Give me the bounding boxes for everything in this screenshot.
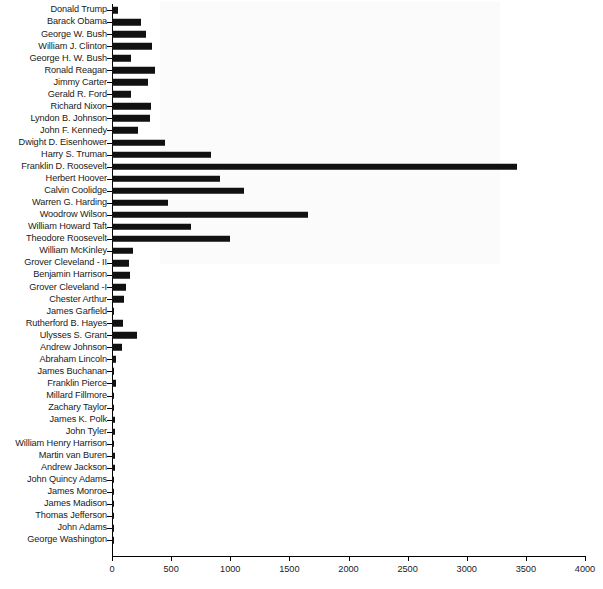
y-axis-tick-label: James Madison <box>0 499 112 508</box>
bar-track <box>112 498 603 510</box>
bar-row: Harry S. Truman <box>0 149 603 161</box>
bar <box>112 260 129 267</box>
bar-row: Theodore Roosevelt <box>0 233 603 245</box>
bar <box>112 79 148 86</box>
bar <box>112 477 114 484</box>
y-axis-tick-label: John Tyler <box>0 427 112 436</box>
y-axis-tick-label: James Garfield <box>0 307 112 316</box>
bar <box>112 284 126 291</box>
bar-row: Donald Trump <box>0 4 603 16</box>
bar-track <box>112 365 603 377</box>
bar <box>112 31 146 38</box>
bar-track <box>112 353 603 365</box>
y-axis-tick-label: Grover Cleveland -I <box>0 283 112 292</box>
y-axis-tick-label: Andrew Jackson <box>0 463 112 472</box>
bar-row: John Tyler <box>0 426 603 438</box>
bar-track <box>112 173 603 185</box>
y-axis-tick-label: John Quincy Adams <box>0 475 112 484</box>
y-axis-tick-label: Thomas Jefferson <box>0 511 112 520</box>
bar-track <box>112 185 603 197</box>
bar <box>112 404 114 411</box>
bar <box>112 19 141 26</box>
bar-track <box>112 402 603 414</box>
bar-row: Herbert Hoover <box>0 173 603 185</box>
y-axis-tick-label: James K. Polk <box>0 415 112 424</box>
bar <box>112 200 168 207</box>
bar <box>112 368 114 375</box>
bar-row: William Howard Taft <box>0 221 603 233</box>
bar-row: Grover Cleveland - II <box>0 257 603 269</box>
bar <box>112 513 114 520</box>
x-axis-tick-label: 3500 <box>516 564 536 574</box>
y-axis-tick-label: Martin van Buren <box>0 451 112 460</box>
bar <box>112 151 211 158</box>
bar <box>112 236 230 243</box>
bar <box>112 308 114 315</box>
y-axis-tick-label: Jimmy Carter <box>0 78 112 87</box>
bar-track <box>112 257 603 269</box>
bar <box>112 440 114 447</box>
bar-row: Millard Fillmore <box>0 390 603 402</box>
y-axis-tick-label: William Henry Harrison <box>0 439 112 448</box>
bar <box>112 501 114 508</box>
bar-row: Chester Arthur <box>0 293 603 305</box>
y-axis-tick-label: Andrew Johnson <box>0 343 112 352</box>
bar-row: Dwight D. Eisenhower <box>0 137 603 149</box>
bar-track <box>112 510 603 522</box>
x-axis-tick-mark <box>408 556 409 561</box>
bar-track <box>112 522 603 534</box>
bar-row: William Henry Harrison <box>0 438 603 450</box>
y-axis-tick-label: John F. Kennedy <box>0 126 112 135</box>
bar <box>112 115 150 122</box>
y-axis-tick-label: George Washington <box>0 535 112 544</box>
bar-track <box>112 245 603 257</box>
bar-track <box>112 293 603 305</box>
bar-row: James Monroe <box>0 486 603 498</box>
bar <box>112 67 155 74</box>
bar-track <box>112 390 603 402</box>
y-axis-tick-label: Benjamin Harrison <box>0 270 112 279</box>
x-axis-tick-label: 1000 <box>220 564 240 574</box>
bar-row: John Adams <box>0 522 603 534</box>
y-axis-tick-label: George W. Bush <box>0 30 112 39</box>
bar <box>112 212 308 219</box>
bar <box>112 248 133 255</box>
bar-row: Thomas Jefferson <box>0 510 603 522</box>
bar-track <box>112 269 603 281</box>
bar-track <box>112 486 603 498</box>
bar <box>112 296 124 303</box>
bar-track <box>112 100 603 112</box>
plot-area: Donald TrumpBarack ObamaGeorge W. BushWi… <box>0 0 603 589</box>
bar <box>112 525 114 532</box>
bar <box>112 380 116 387</box>
y-axis-tick-label: Zachary Taylor <box>0 403 112 412</box>
bar-row: Barack Obama <box>0 16 603 28</box>
bar-row: Grover Cleveland -I <box>0 281 603 293</box>
y-axis-tick-label: Dwight D. Eisenhower <box>0 138 112 147</box>
bar <box>112 43 152 50</box>
bar-track <box>112 76 603 88</box>
bar-row: William McKinley <box>0 245 603 257</box>
x-axis-tick-mark <box>289 556 290 561</box>
x-axis-tick-label: 1500 <box>279 564 299 574</box>
y-axis-tick-label: Woodrow Wilson <box>0 210 112 219</box>
bar-track <box>112 197 603 209</box>
bar-track <box>112 534 603 546</box>
bar-track <box>112 426 603 438</box>
bar-row: Woodrow Wilson <box>0 209 603 221</box>
y-axis-tick-label: Calvin Coolidge <box>0 186 112 195</box>
bar <box>112 139 165 146</box>
y-axis-tick-label: William J. Clinton <box>0 42 112 51</box>
bar-row: Lyndon B. Johnson <box>0 112 603 124</box>
y-axis-tick-label: Herbert Hoover <box>0 174 112 183</box>
bar-track <box>112 281 603 293</box>
bar <box>112 163 517 170</box>
bar-track <box>112 149 603 161</box>
bar-row: Ulysses S. Grant <box>0 329 603 341</box>
y-axis-tick-label: Gerald R. Ford <box>0 90 112 99</box>
bar <box>112 175 220 182</box>
bar-track <box>112 305 603 317</box>
y-axis-tick-label: Rutherford B. Hayes <box>0 319 112 328</box>
bar-track <box>112 233 603 245</box>
y-axis-tick-label: James Monroe <box>0 487 112 496</box>
